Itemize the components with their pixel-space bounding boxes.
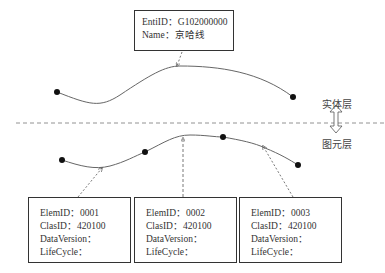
entity-layer-label: 实体层	[322, 96, 352, 111]
entid-row: EntiID：G102000000	[142, 16, 233, 29]
clasid-value: 420100	[288, 221, 317, 231]
clasid-label: ClasID：	[40, 221, 77, 231]
elemid-value: 0001	[80, 208, 99, 218]
entity-curve	[57, 66, 293, 103]
dataversion-label: DataVersion：	[40, 233, 130, 246]
element-curve	[62, 135, 298, 168]
element-point	[59, 157, 65, 163]
element-point	[295, 162, 301, 168]
entid-label: EntiID：	[142, 17, 178, 27]
lifecycle-label: LifeCycle：	[40, 246, 130, 259]
element-info-box-1: ElemID：0001 ClasID：420100 DataVersion： L…	[28, 197, 131, 263]
element-point	[142, 149, 148, 155]
element-point	[220, 134, 226, 140]
elemid-label: ElemID：	[251, 208, 291, 218]
elemid-value: 0003	[291, 208, 310, 218]
element-layer-label: 图元层	[322, 136, 352, 151]
clasid-value: 420100	[183, 221, 212, 231]
lifecycle-label: LifeCycle：	[251, 246, 341, 259]
name-row: Name：京哈线	[142, 29, 233, 42]
clasid-label: ClasID：	[146, 221, 183, 231]
entity-point-end	[290, 94, 296, 100]
entity-link-arrow	[177, 52, 182, 66]
dataversion-label: DataVersion：	[251, 233, 341, 246]
elemid-label: ElemID：	[40, 208, 80, 218]
clasid-value: 420100	[77, 221, 106, 231]
element-info-box-2: ElemID：0002 ClasID：420100 DataVersion： L…	[134, 197, 237, 263]
entid-value: G102000000	[178, 17, 228, 27]
lifecycle-label: LifeCycle：	[146, 246, 236, 259]
name-label: Name：	[142, 30, 175, 40]
entity-point-start	[54, 89, 60, 95]
elemid-label: ElemID：	[146, 208, 186, 218]
element-info-box-3: ElemID：0003 ClasID：420100 DataVersion： L…	[239, 197, 342, 263]
dataversion-label: DataVersion：	[146, 233, 236, 246]
entity-info-box: EntiID：G102000000 Name：京哈线	[134, 10, 234, 51]
element-link-arrow-1	[78, 168, 102, 197]
elemid-value: 0002	[186, 208, 205, 218]
name-value: 京哈线	[175, 30, 205, 40]
clasid-label: ClasID：	[251, 221, 288, 231]
